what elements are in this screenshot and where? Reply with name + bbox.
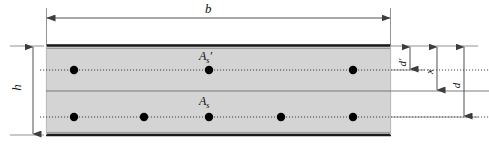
- d-prime-text: d′: [396, 59, 408, 67]
- tension-steel-label: As: [199, 95, 210, 111]
- rebar-dot-tension: [70, 113, 78, 121]
- dimension-label-h: h: [10, 84, 23, 91]
- beam-cross-section-figure: b h d′ x d As′ As: [0, 0, 489, 144]
- cross-section-drawing: [0, 0, 489, 144]
- concrete-section-fill: [46, 44, 391, 136]
- rebar-dot-tension: [277, 113, 285, 121]
- rebar-dot-compression: [205, 66, 213, 74]
- compression-steel-label: As′: [199, 50, 212, 66]
- dimension-label-d-prime: d′: [397, 59, 408, 67]
- rebar-dot-compression: [349, 66, 357, 74]
- as-subscript: s: [206, 101, 209, 110]
- dimension-label-d: d: [451, 83, 462, 89]
- dimension-label-b: b: [205, 2, 212, 15]
- as-prime-mark: ′: [210, 49, 213, 63]
- dimension-label-x: x: [424, 69, 435, 74]
- rebar-dot-tension: [205, 113, 213, 121]
- rebar-dot-tension: [140, 113, 148, 121]
- rebar-dot-compression: [70, 66, 78, 74]
- rebar-dot-tension: [349, 113, 357, 121]
